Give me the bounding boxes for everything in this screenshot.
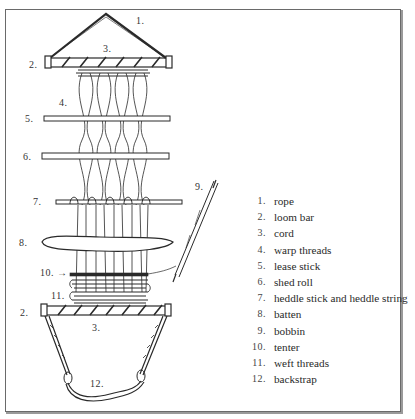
callout-7: 7.: [33, 196, 42, 207]
legend-item-loom-bar: 2. loom bar: [242, 209, 408, 225]
callout-12: 12.: [90, 378, 104, 389]
legend-label: lease stick: [274, 258, 320, 274]
heddle-stick: [56, 197, 182, 204]
legend-item-batten: 8. batten: [242, 306, 408, 322]
legend-label: bobbin: [274, 323, 305, 339]
callout-3-top: 3.: [103, 43, 112, 54]
callout-1: 1.: [136, 15, 145, 26]
legend-label: rope: [274, 193, 294, 209]
legend-item-cord: 3. cord: [242, 225, 408, 241]
shed-roll: [42, 153, 169, 159]
legend-label: heddle stick and heddle string: [274, 290, 408, 306]
legend-label: weft threads: [274, 355, 329, 371]
top-loom-bar: [45, 56, 172, 68]
legend-item-tenter: 10. tenter: [242, 339, 408, 355]
callout-4: 4.: [59, 97, 68, 108]
legend-number: 6.: [242, 274, 274, 290]
bottom-loom-bar: [41, 304, 171, 316]
legend-item-lease-stick: 5. lease stick: [242, 258, 408, 274]
backstrap-cords: [45, 316, 167, 375]
legend-item-backstrap: 12. backstrap: [242, 371, 408, 387]
callout-2-bottom: 2.: [20, 307, 29, 318]
warp-threads: [76, 73, 148, 292]
bobbin: [173, 180, 218, 282]
legend-label: shed roll: [274, 274, 313, 290]
callout-11: 11.: [51, 290, 65, 301]
batten: [42, 236, 173, 251]
weft-threads: [70, 280, 151, 303]
legend-number: 3.: [242, 225, 274, 241]
legend-number: 7.: [242, 290, 274, 306]
legend-number: 1.: [242, 193, 274, 209]
backstrap: [64, 370, 145, 401]
callout-3-bottom: 3.: [92, 322, 101, 333]
callout-5: 5.: [25, 113, 34, 124]
legend-number: 8.: [242, 306, 274, 322]
legend-item-warp-threads: 4. warp threads: [242, 242, 408, 258]
legend-number: 12.: [242, 371, 274, 387]
legend-label: cord: [274, 225, 294, 241]
legend-number: 10.: [242, 339, 274, 355]
legend-number: 9.: [242, 323, 274, 339]
legend-number: 2.: [242, 209, 274, 225]
legend: 1. rope 2. loom bar 3. cord 4. warp thre…: [242, 193, 408, 387]
legend-label: backstrap: [274, 371, 317, 387]
callout-2-top: 2.: [29, 59, 38, 70]
legend-item-bobbin: 9. bobbin: [242, 323, 408, 339]
legend-number: 4.: [242, 242, 274, 258]
legend-item-shed-roll: 6. shed roll: [242, 274, 408, 290]
callout-6: 6.: [23, 151, 32, 162]
callout-8: 8.: [19, 237, 28, 248]
legend-number: 11.: [242, 355, 274, 371]
legend-item-heddle: 7. heddle stick and heddle string: [242, 290, 408, 306]
legend-label: loom bar: [274, 209, 314, 225]
lease-stick: [44, 116, 170, 121]
legend-label: warp threads: [274, 242, 331, 258]
tenter: [70, 273, 148, 276]
legend-item-weft-threads: 11. weft threads: [242, 355, 408, 371]
legend-item-rope: 1. rope: [242, 193, 408, 209]
legend-label: tenter: [274, 339, 299, 355]
legend-label: batten: [274, 306, 301, 322]
callout-10: 10. →: [40, 267, 68, 278]
legend-number: 5.: [242, 258, 274, 274]
callout-9: 9.: [195, 181, 204, 192]
